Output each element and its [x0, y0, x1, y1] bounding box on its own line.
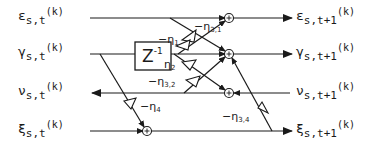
output-label-gamma: γs,t+1(k)	[296, 42, 355, 63]
gain-eta32-icon	[186, 76, 200, 87]
gain-eta32-label: −η3,2	[148, 75, 175, 89]
gain-eta34-label: −η3,4	[222, 110, 250, 124]
input-label-epsilon: εs,t(k)	[18, 6, 64, 27]
input-label-xi: ξs,t(k)	[18, 119, 64, 140]
output-label-xi: ξs,t+1(k)	[296, 119, 355, 140]
input-label-nu: νs,t(k)	[18, 81, 64, 102]
signal-flow-diagram: εs,t(k) γs,t(k) νs,t(k) ξs,t(k) εs,t+1(k…	[0, 0, 378, 150]
gain-eta31-label: −η3,1	[194, 20, 221, 34]
gain-eta1-label: −η1	[158, 33, 179, 47]
eta2-branch	[174, 54, 225, 90]
output-label-nu: νs,t+1(k)	[296, 81, 355, 102]
sum-node-epsilon	[225, 14, 234, 23]
sum-node-nu	[225, 89, 234, 98]
gain-eta4-label: −η4	[140, 100, 161, 114]
sum-node-gamma	[225, 50, 234, 59]
sum-node-xi	[143, 127, 152, 136]
gain-eta4-icon	[124, 98, 136, 109]
gain-eta34-icon	[258, 102, 268, 113]
input-label-gamma: γs,t(k)	[18, 42, 64, 63]
gain-eta2-label: η2	[164, 58, 175, 72]
output-label-epsilon: εs,t+1(k)	[296, 6, 355, 27]
